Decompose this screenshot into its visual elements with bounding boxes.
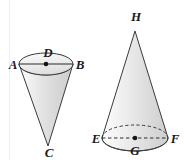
label-G: G xyxy=(130,143,140,158)
cones-diagram: A B D C H E F G xyxy=(0,0,186,160)
geometry-figure: A B D C H E F G xyxy=(0,0,186,160)
label-H: H xyxy=(130,9,142,24)
left-cone-center-point-D xyxy=(44,62,49,67)
right-cone-center-point-G xyxy=(133,136,138,141)
label-C: C xyxy=(45,145,54,160)
label-B: B xyxy=(75,57,85,72)
label-D: D xyxy=(42,45,53,60)
label-F: F xyxy=(170,131,180,146)
label-E: E xyxy=(91,131,101,146)
label-A: A xyxy=(8,57,18,72)
